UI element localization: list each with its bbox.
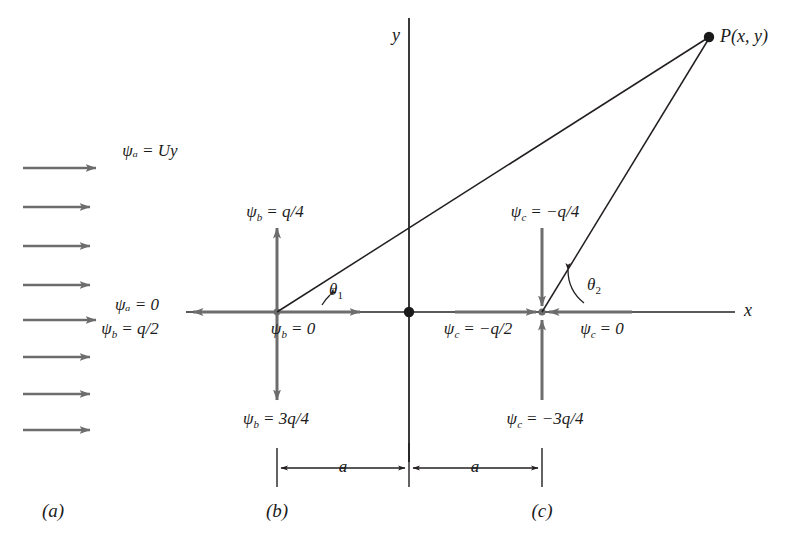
ray-source-to-p bbox=[277, 39, 706, 312]
label-theta2: θ2 bbox=[587, 276, 601, 296]
panel-caption-b: (b) bbox=[266, 501, 288, 520]
panel-a-stream-arrows bbox=[23, 168, 96, 430]
psi-b-left-sym: ψ bbox=[101, 319, 112, 338]
x-axis-label: x bbox=[744, 301, 752, 319]
psi-b-right-rhs: = 0 bbox=[291, 319, 315, 338]
psi-c-down-sub: c bbox=[517, 418, 522, 430]
ray-sink-to-p bbox=[542, 40, 708, 312]
label-psi-a-uy-full: ψₐ = Uy bbox=[122, 142, 177, 159]
psi-b-left-sub: b bbox=[112, 328, 118, 340]
psi-c-right-sym: ψ bbox=[580, 319, 591, 338]
psi-c-left-sym: ψ bbox=[444, 319, 455, 338]
psi-b-down-rhs: = 3q/4 bbox=[263, 409, 309, 428]
dimension-label-right: a bbox=[471, 458, 480, 475]
theta2-arc bbox=[568, 270, 584, 303]
label-psi-b-up: ψb= q/4 bbox=[246, 203, 304, 223]
point-p-coords: (x, y) bbox=[731, 26, 768, 46]
psi-b-down-sym: ψ bbox=[243, 409, 254, 428]
psi-c-up-rhs: = −q/4 bbox=[530, 202, 579, 221]
psi-b-up-rhs: = q/4 bbox=[266, 202, 303, 221]
psi-c-up-sym: ψ bbox=[511, 202, 522, 221]
label-psi-c-down: ψc= −3q/4 bbox=[507, 410, 584, 430]
psi-b-down-sub: b bbox=[254, 418, 260, 430]
label-point-p: P(x, y) bbox=[720, 27, 768, 45]
psi-b-right-sub: b bbox=[281, 328, 287, 340]
label-psi-c-up: ψc= −q/4 bbox=[511, 203, 579, 223]
psi-b-right-sym: ψ bbox=[271, 319, 282, 338]
label-psi-a-zero: ψₐ = 0 bbox=[115, 296, 159, 313]
psi-c-left-rhs: = −q/2 bbox=[463, 319, 512, 338]
label-psi-c-right: ψc= 0 bbox=[580, 320, 624, 340]
psi-c-down-sym: ψ bbox=[507, 409, 518, 428]
origin-dot bbox=[404, 307, 414, 317]
psi-b-up-sym: ψ bbox=[246, 202, 257, 221]
label-theta1: θ1 bbox=[329, 281, 343, 301]
psi-c-right-rhs: = 0 bbox=[600, 319, 624, 338]
point-p-dot bbox=[704, 32, 714, 42]
theta1-sub: 1 bbox=[337, 289, 343, 301]
theta2-sub: 2 bbox=[595, 284, 601, 296]
psi-b-up-sub: b bbox=[257, 211, 263, 223]
dimension-label-left: a bbox=[339, 458, 348, 475]
label-psi-b-left: ψb= q/2 bbox=[101, 320, 159, 340]
psi-c-up-sub: c bbox=[521, 211, 526, 223]
label-psi-b-right: ψb= 0 bbox=[271, 320, 315, 340]
rays-to-point-p bbox=[277, 39, 708, 312]
psi-c-down-rhs: = −3q/4 bbox=[526, 409, 583, 428]
psi-b-left-rhs: = q/2 bbox=[121, 319, 158, 338]
psi-c-left-sub: c bbox=[454, 328, 459, 340]
point-p-sym: P bbox=[720, 26, 731, 46]
label-psi-b-down: ψb= 3q/4 bbox=[243, 410, 309, 430]
y-axis-label: y bbox=[392, 26, 400, 44]
figure-container: ψₐ = Uy ψₐ = 0 ψb= q/4 ψb= q/2 ψb= 0 ψb=… bbox=[0, 0, 802, 541]
label-psi-c-left: ψc= −q/2 bbox=[444, 320, 512, 340]
diagram-canvas bbox=[0, 0, 802, 541]
psi-c-right-sub: c bbox=[591, 328, 596, 340]
panel-caption-a: (a) bbox=[42, 501, 64, 520]
panel-caption-c: (c) bbox=[531, 501, 552, 520]
